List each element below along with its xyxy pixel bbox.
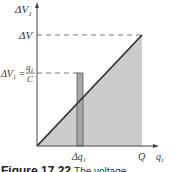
y-axis-arrow-icon xyxy=(35,2,39,8)
diagram-canvas: ΔV1 ΔV ΔV1 = q1 C Δq1 Q q1 Figure 17.22T… xyxy=(0,0,172,172)
delta-v1-formula-label: ΔV1 = q1 C xyxy=(0,62,35,84)
svg-text:q1: q1 xyxy=(26,62,34,73)
svg-text:C: C xyxy=(27,74,34,84)
x-axis-label: q1 xyxy=(156,151,164,163)
y-axis-label: ΔV1 xyxy=(14,3,32,18)
delta-v-label: ΔV xyxy=(18,29,33,41)
q-total-label: Q xyxy=(138,151,146,162)
delta-q1-label: Δq1 xyxy=(71,151,86,163)
svg-text:ΔV1: ΔV1 xyxy=(0,68,16,80)
charge-strip xyxy=(77,73,83,146)
svg-text:=: = xyxy=(19,68,25,79)
x-axis-arrow-icon xyxy=(153,144,159,148)
figure-caption: Figure 17.22The voltage xyxy=(1,164,127,172)
